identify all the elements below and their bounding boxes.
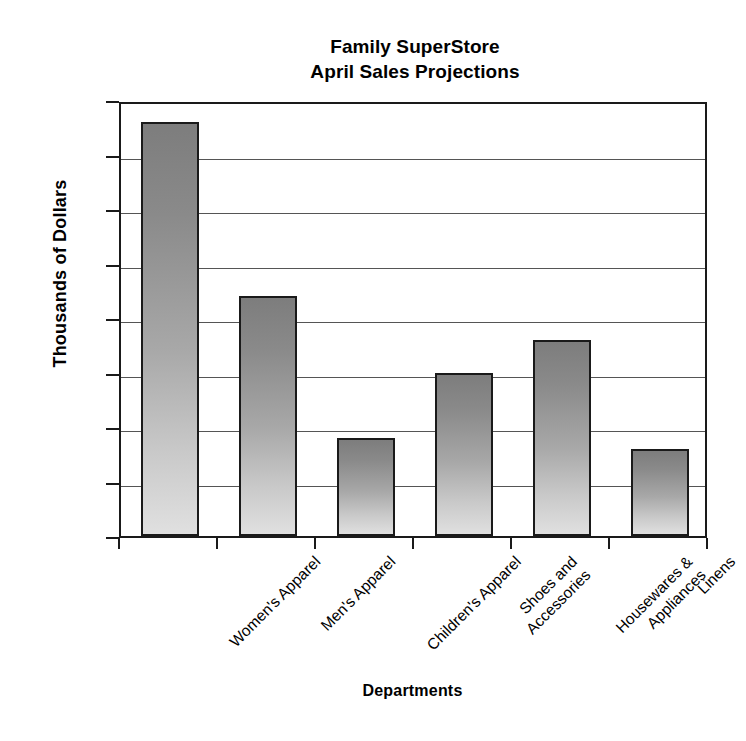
- x-axis-tick: [314, 538, 316, 549]
- chart-title-line-2: April Sales Projections: [120, 59, 710, 84]
- bar: [141, 122, 199, 536]
- y-axis-tick: [106, 428, 119, 430]
- x-axis-tick: [412, 538, 414, 549]
- chart-title: Family SuperStore April Sales Projection…: [120, 34, 710, 84]
- bar: [337, 438, 395, 536]
- gridline: [121, 486, 705, 487]
- bar: [631, 449, 689, 536]
- plot-area: [119, 102, 707, 538]
- x-axis-category-label: Housewares & Appliances: [612, 552, 710, 650]
- x-axis-category-label: Children's Apparel: [423, 552, 525, 654]
- x-axis-category-label: Women's Apparel: [225, 552, 324, 651]
- x-axis-tick: [216, 538, 218, 549]
- bar: [239, 296, 297, 536]
- x-axis-tick: [510, 538, 512, 549]
- y-axis-tick: [106, 210, 119, 212]
- bar: [533, 340, 591, 536]
- y-axis-tick: [106, 483, 119, 485]
- gridline: [121, 377, 705, 378]
- x-axis-tick: [118, 538, 120, 549]
- gridline: [121, 268, 705, 269]
- bar-chart-figure: Family SuperStore April Sales Projection…: [0, 0, 746, 741]
- bar: [435, 373, 493, 537]
- y-axis-tick: [106, 319, 119, 321]
- y-axis-tick: [106, 374, 119, 376]
- gridline: [121, 322, 705, 323]
- gridline: [121, 213, 705, 214]
- gridline: [121, 431, 705, 432]
- chart-title-line-1: Family SuperStore: [120, 34, 710, 59]
- x-axis-tick: [706, 538, 708, 549]
- x-axis-category-label: Men's Apparel: [317, 552, 400, 635]
- y-axis-tick: [106, 101, 119, 103]
- gridline: [121, 159, 705, 160]
- x-axis-title: Departments: [115, 682, 710, 700]
- y-axis-tick: [106, 156, 119, 158]
- y-axis-title: Thousands of Dollars: [50, 114, 71, 434]
- y-axis-tick: [106, 265, 119, 267]
- x-axis-tick: [608, 538, 610, 549]
